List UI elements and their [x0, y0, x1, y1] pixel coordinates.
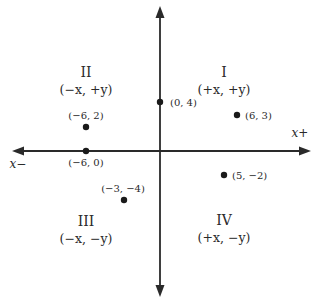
x-negative-label: x− — [10, 157, 27, 171]
point-5-neg2: (5, −2) — [221, 170, 268, 181]
quadrant-signs: (+x, +y) — [198, 82, 251, 97]
arrow-left-icon — [12, 147, 24, 156]
arrow-up-icon — [156, 6, 165, 18]
quadrant-numeral: IV — [216, 212, 233, 228]
quadrant-III: III (−x, −y) — [60, 213, 113, 246]
point-neg3-neg4: (−3, −4) — [101, 183, 145, 203]
x-axis — [12, 147, 311, 156]
quadrant-IV: IV (+x, −y) — [198, 212, 251, 245]
arrow-right-icon — [299, 147, 311, 156]
point-dot-icon — [83, 148, 89, 154]
point-dot-icon — [234, 112, 240, 118]
quadrant-signs: (+x, −y) — [198, 230, 251, 245]
point-label: (0, 4) — [170, 97, 197, 108]
arrow-down-icon — [156, 285, 165, 297]
point-dot-icon — [157, 99, 163, 105]
quadrant-signs: (−x, −y) — [60, 231, 113, 246]
point-6-3: (6, 3) — [234, 110, 272, 121]
point-label: (−6, 2) — [68, 110, 103, 121]
quadrant-numeral: II — [80, 64, 91, 80]
point-dot-icon — [221, 172, 227, 178]
quadrant-I: I (+x, +y) — [198, 64, 251, 97]
point-dot-icon — [121, 197, 127, 203]
x-positive-label: x+ — [292, 126, 309, 140]
point-label: (5, −2) — [232, 170, 267, 181]
point-0-4: (0, 4) — [157, 97, 197, 108]
quadrant-numeral: I — [221, 64, 227, 80]
point-label: (6, 3) — [245, 110, 272, 121]
point-label: (−3, −4) — [101, 183, 145, 194]
point-dot-icon — [83, 124, 89, 130]
quadrant-numeral: III — [78, 213, 95, 229]
coordinate-plane-diagram: x+ x− I (+x, +y) II (−x, +y) III (−x, −y… — [0, 0, 314, 300]
quadrant-signs: (−x, +y) — [60, 82, 113, 97]
point-label: (−6, 0) — [68, 157, 103, 168]
quadrant-II: II (−x, +y) — [60, 64, 113, 97]
point-neg6-2: (−6, 2) — [68, 110, 103, 130]
